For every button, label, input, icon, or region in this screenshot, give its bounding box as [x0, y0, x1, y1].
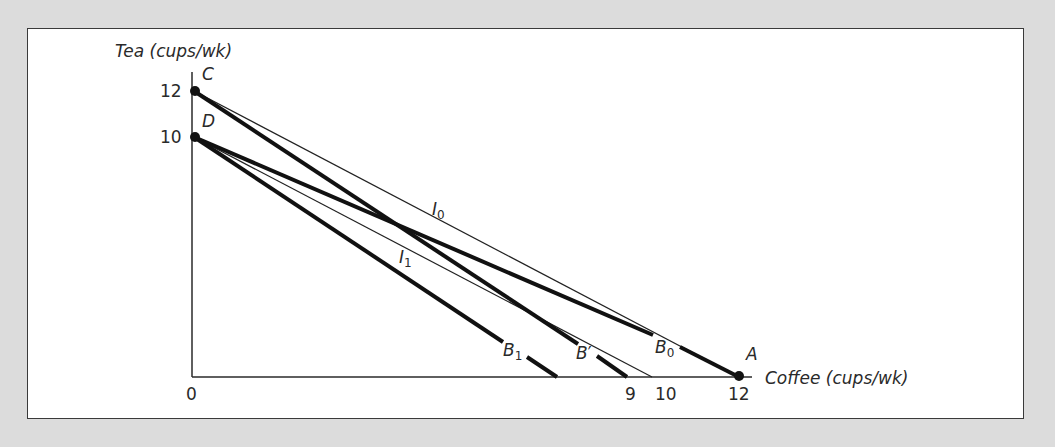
- budget-B1-segment-2: [527, 357, 557, 377]
- point-C: [190, 86, 200, 96]
- budget-B0-segment-1: [194, 137, 653, 335]
- x-tick-12: 12: [728, 384, 750, 404]
- budget-Bprime-segment-1: [194, 91, 578, 344]
- curve-I0: [194, 91, 739, 377]
- budget-B0-segment-2: [680, 347, 739, 377]
- curve-I1: [194, 137, 652, 377]
- x-tick-0: 0: [186, 384, 197, 404]
- label-D: D: [202, 111, 215, 131]
- label-I0: I0: [432, 199, 445, 222]
- chart-plot: Tea (cups/wk) Coffee (cups/wk) 12 10 0 9…: [0, 0, 1055, 447]
- y-axis-title: Tea (cups/wk): [115, 41, 232, 61]
- point-D: [190, 132, 200, 142]
- label-B0: B0: [655, 337, 674, 360]
- label-Bprime: B′: [576, 343, 592, 363]
- budget-Bprime-segment-2: [597, 356, 627, 377]
- y-tick-12: 12: [160, 81, 182, 101]
- y-tick-10: 10: [160, 127, 182, 147]
- label-C: C: [202, 64, 214, 84]
- label-B1: B1: [503, 340, 522, 363]
- x-axis-title: Coffee (cups/wk): [765, 368, 908, 388]
- label-A: A: [745, 344, 758, 364]
- x-tick-10: 10: [655, 384, 677, 404]
- x-tick-9: 9: [625, 384, 636, 404]
- point-A: [734, 371, 744, 381]
- budget-B1-segment-1: [194, 137, 503, 342]
